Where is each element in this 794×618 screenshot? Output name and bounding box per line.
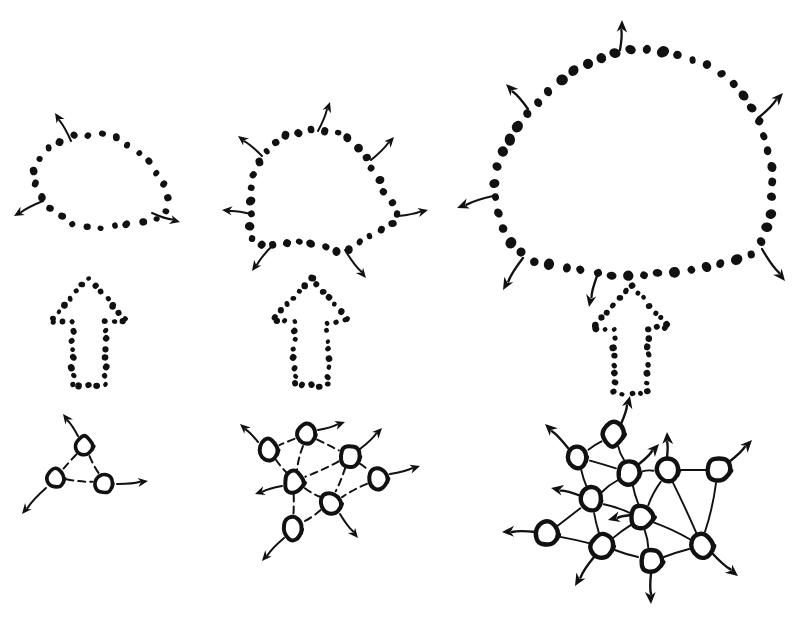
growth-arrow-small-dot <box>67 363 76 373</box>
growth-arrow-large-dot <box>629 390 637 397</box>
blob-medium-boundary-dot <box>388 219 397 227</box>
arrow-network-large-w2-shaft <box>561 491 581 496</box>
growth-arrow-large <box>591 281 671 397</box>
blob-large-boundary-dot <box>566 63 580 78</box>
arrow-network-small-nw <box>63 414 78 436</box>
growth-arrow-large-dot <box>611 362 618 370</box>
growth-arrow-medium-dot <box>324 327 330 333</box>
blob-medium-boundary-dot <box>307 125 315 134</box>
growth-arrow-small-dot <box>115 309 123 316</box>
blob-small-boundary-dot <box>68 220 77 228</box>
network-medium-node-m2-ring <box>260 439 279 461</box>
network-large-node-L10 <box>642 550 664 572</box>
growth-arrow-large-dot <box>644 388 651 395</box>
network-small-node-n2 <box>47 468 65 487</box>
blob-large-boundary-dot <box>747 250 755 259</box>
network-large-edge <box>581 470 587 487</box>
blob-large-boundary-dot <box>510 119 526 135</box>
growth-arrow-small-dot <box>102 346 108 352</box>
arrow-blob-medium-ne <box>371 137 394 160</box>
network-medium-node-m6 <box>321 493 342 513</box>
network-large-node-L1-ring <box>603 422 625 447</box>
network-large-node-L11 <box>691 534 714 558</box>
network-large-node-L3-ring <box>619 461 641 484</box>
blob-small-boundary-dot <box>98 130 107 138</box>
growth-arrow-small-dot <box>101 354 108 361</box>
arrow-blob-large-se-shaft <box>762 249 779 273</box>
growth-arrow-small-dot <box>84 381 92 389</box>
network-large-node-L5 <box>708 458 732 480</box>
network-small-node-n3-ring <box>95 474 113 492</box>
arrow-blob-small-w <box>14 201 43 216</box>
growth-arrow-large-dot <box>635 290 641 296</box>
arrow-network-medium-sw-shaft <box>268 538 285 555</box>
network-large-node-L9 <box>590 534 614 558</box>
network-medium-edge <box>276 460 286 473</box>
network-large-edge <box>588 441 601 449</box>
blob-small-boundary-dot <box>31 178 40 188</box>
arrow-blob-large-nw <box>506 84 528 109</box>
network-large-node-L8-ring <box>536 521 559 544</box>
growth-arrow-small-dot <box>56 309 62 315</box>
arrow-network-large-sw-shaft <box>581 557 595 578</box>
network-medium-node-m3 <box>341 446 360 467</box>
arrow-blob-medium-se-shaft <box>345 250 361 272</box>
network-medium-node-m1 <box>297 424 316 444</box>
blob-large-boundary-dot <box>488 178 500 189</box>
arrow-network-medium-nw-shaft <box>246 430 258 442</box>
blob-large-boundary-dot <box>652 269 662 278</box>
growth-arrow-small-dot <box>97 288 104 295</box>
network-large-node-L2-ring <box>568 447 587 469</box>
blob-large-boundary-dot <box>764 208 777 220</box>
arrow-network-medium-ne <box>318 421 345 430</box>
blob-small-boundary-dot <box>45 144 51 152</box>
arrow-blob-large-ne-shaft <box>758 100 776 118</box>
arrow-network-medium-ne-shaft <box>318 424 337 430</box>
growth-arrow-small-dot <box>75 382 83 390</box>
growth-arrow-large-dot <box>611 352 618 358</box>
network-medium-edge <box>305 488 320 497</box>
growth-arrow-large-dot <box>598 314 605 321</box>
arrow-network-large-wint-shaft <box>618 515 631 518</box>
network-large-edge <box>604 504 629 512</box>
network-large-edge <box>643 470 654 471</box>
network-large-edge <box>560 537 589 543</box>
blob-medium-boundary-dot <box>263 147 271 156</box>
growth-arrow-medium <box>270 274 350 390</box>
growth-arrow-large-dot <box>644 343 651 351</box>
growth-arrow-medium-dot <box>325 338 331 344</box>
blob-large-boundary-dot <box>755 235 767 247</box>
blob-large-boundary-dot <box>759 131 769 142</box>
arrow-network-small-sw <box>22 488 46 514</box>
blob-medium-boundary-dot <box>248 170 258 180</box>
blob-large-boundary-dot <box>689 56 696 64</box>
growth-arrow-small-dot <box>67 337 75 345</box>
network-small-node-n1 <box>75 436 93 455</box>
arrow-blob-small-nw <box>55 113 71 141</box>
blob-medium-boundary-dot <box>366 232 373 240</box>
network-large-edge <box>664 549 689 557</box>
network-small-arrows <box>22 414 148 514</box>
growth-arrow-medium-dot <box>296 288 303 294</box>
arrow-blob-medium-n <box>318 102 331 131</box>
blob-medium-boundary-dot <box>366 163 376 173</box>
blob-large-boundary-dot <box>673 51 682 60</box>
network-large-edge <box>673 482 697 533</box>
growth-arrow-large-dot <box>609 388 617 396</box>
blob-small-boundary-dot <box>163 193 172 202</box>
network-medium-edge <box>303 510 320 522</box>
network-medium-node-m6-ring <box>321 493 342 513</box>
blob-large-boundary-dot <box>655 44 671 60</box>
blob-small-boundary-dot <box>139 218 148 227</box>
growth-arrow-medium-dot <box>301 282 308 289</box>
blob-medium-boundary-dot <box>247 184 255 192</box>
growth-arrow-large-dot <box>653 310 660 317</box>
network-medium-node-m4 <box>285 470 305 492</box>
growth-arrow-large-dot <box>612 335 618 341</box>
arrow-network-medium-e-shaft <box>390 468 412 474</box>
blob-medium-boundary-dot <box>377 225 386 235</box>
growth-arrow-large-dot <box>611 326 618 332</box>
blob-large-boundary-dot <box>716 69 727 79</box>
growth-arrow-large-dot <box>645 362 651 369</box>
growth-arrow-medium-dot <box>278 307 285 314</box>
